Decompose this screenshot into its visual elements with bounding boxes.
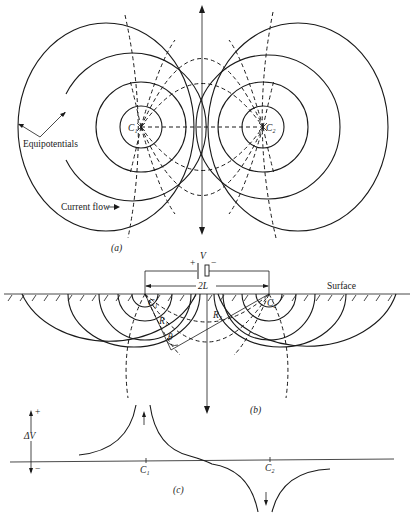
equipotentials-label: Equipotentials: [23, 139, 78, 149]
electrode-potential-diagram: C₁ C₂ Equipotentials Current flow (a) +: [0, 0, 416, 519]
panel-c-caption: (c): [173, 485, 184, 496]
battery-minus: −: [211, 258, 216, 268]
panel-a-caption: (a): [111, 243, 122, 254]
electrode-c1-label-b: C₁: [148, 298, 158, 308]
r1-label: R₁: [158, 316, 168, 326]
r2-label: R₂: [212, 310, 223, 320]
potential-curve: [79, 405, 330, 512]
angle-label: θ: [168, 332, 173, 342]
vertical-axis: [199, 5, 205, 235]
delta-v-label: ΔV: [23, 431, 37, 441]
axis-plus: +: [35, 407, 40, 417]
equipotentials-pointer: [18, 112, 66, 137]
battery-plus: +: [190, 258, 195, 268]
battery-label: V: [200, 251, 207, 261]
panel-b: + − V 2L Surface: [4, 251, 410, 416]
electrode-c2-label: C₂: [266, 123, 276, 133]
current-flow-lines: [125, 12, 276, 238]
panel-b-caption: (b): [250, 405, 261, 416]
current-flow-label: Current flow: [61, 202, 110, 212]
tick-c2-label: C₂: [265, 463, 275, 473]
electrode-c2-label-b: C₂: [267, 298, 277, 308]
equipotentials-c1: [18, 9, 206, 231]
delta-v-axis: [29, 410, 33, 474]
equipotentials-c2: [196, 23, 388, 231]
depth-arrow: [204, 294, 210, 414]
panel-a: C₁ C₂ Equipotentials Current flow (a): [18, 5, 388, 254]
spacing-label: 2L: [198, 281, 208, 291]
surface-label: Surface: [327, 281, 356, 291]
electrode-c1-label: C₁: [128, 123, 138, 133]
axis-minus: −: [35, 464, 40, 474]
subsurface-equipotentials: [22, 294, 396, 347]
tick-c1-label: C₁: [140, 465, 150, 475]
panel-c: + − ΔV C₁ C₂ (c): [10, 405, 394, 512]
